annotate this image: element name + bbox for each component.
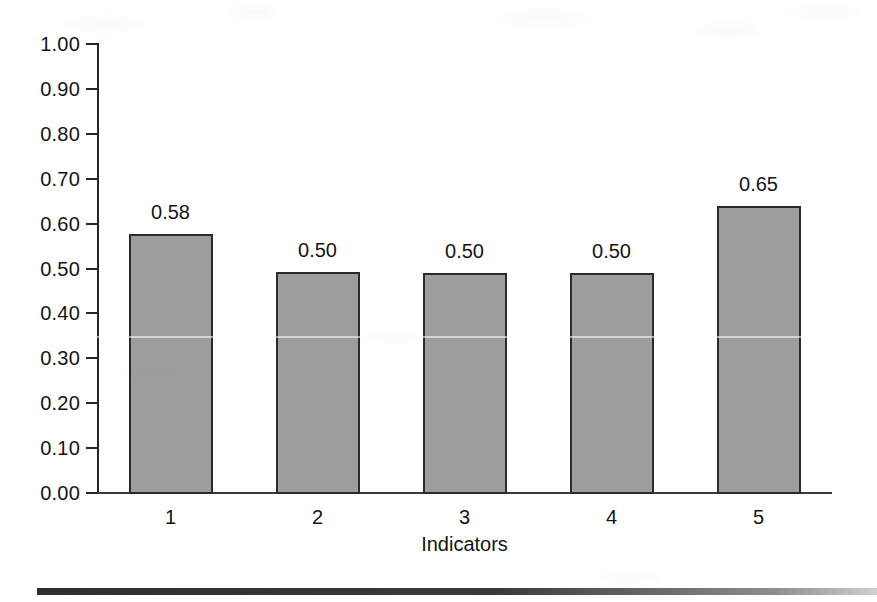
y-axis-tick-label: 0.10 bbox=[10, 438, 80, 458]
y-axis-tick bbox=[86, 88, 97, 90]
y-axis-tick-label: 1.00 bbox=[10, 34, 80, 54]
bar bbox=[717, 206, 801, 494]
bar bbox=[129, 234, 213, 494]
y-axis-tick-label: 0.20 bbox=[10, 393, 80, 413]
y-axis-tick bbox=[86, 178, 97, 180]
y-axis-tick bbox=[86, 402, 97, 404]
x-axis-category-label: 3 bbox=[405, 507, 525, 527]
bar bbox=[423, 273, 507, 494]
bar-value-label: 0.50 bbox=[405, 241, 525, 261]
x-axis-category-label: 5 bbox=[699, 507, 819, 527]
x-axis-category-label: 1 bbox=[111, 507, 231, 527]
x-axis-category-label: 2 bbox=[258, 507, 378, 527]
bottom-divider-rule bbox=[37, 588, 877, 595]
y-axis-tick-label: 0.50 bbox=[10, 259, 80, 279]
bar-value-label: 0.65 bbox=[699, 174, 819, 194]
y-axis-tick bbox=[86, 447, 97, 449]
y-axis-tick bbox=[86, 223, 97, 225]
y-axis-tick-label: 0.40 bbox=[10, 303, 80, 323]
y-axis-line bbox=[97, 43, 99, 494]
y-axis-tick bbox=[86, 312, 97, 314]
bar-chart-figure: 1.000.900.800.700.600.500.400.300.200.10… bbox=[0, 0, 877, 602]
y-axis-tick bbox=[86, 492, 97, 494]
y-axis-tick bbox=[86, 43, 97, 45]
y-axis-tick bbox=[86, 357, 97, 359]
y-axis-tick-label: 0.80 bbox=[10, 124, 80, 144]
x-axis-category-label: 4 bbox=[552, 507, 672, 527]
bar-value-label: 0.58 bbox=[111, 202, 231, 222]
y-axis-tick bbox=[86, 133, 97, 135]
y-axis-tick-label: 0.90 bbox=[10, 79, 80, 99]
x-axis-title: Indicators bbox=[97, 533, 832, 556]
bar bbox=[570, 273, 654, 494]
bar-value-label: 0.50 bbox=[258, 240, 378, 260]
y-axis-tick-label: 0.00 bbox=[10, 483, 80, 503]
y-axis-tick-label: 0.70 bbox=[10, 169, 80, 189]
y-axis-tick-label: 0.60 bbox=[10, 214, 80, 234]
y-axis-tick bbox=[86, 268, 97, 270]
bar bbox=[276, 272, 360, 494]
bar-value-label: 0.50 bbox=[552, 241, 672, 261]
y-axis-tick-label: 0.30 bbox=[10, 348, 80, 368]
